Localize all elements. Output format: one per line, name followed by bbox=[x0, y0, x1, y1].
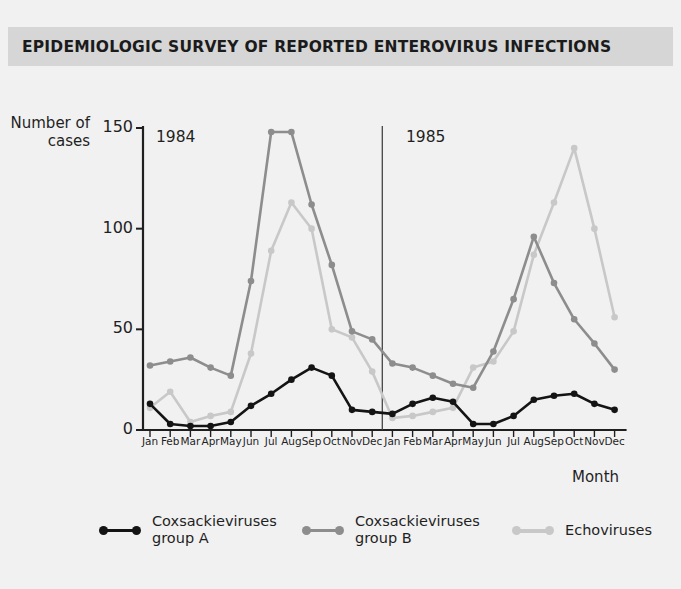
series-data-point bbox=[369, 368, 376, 375]
series-data-point bbox=[308, 364, 315, 371]
series-data-point bbox=[510, 328, 517, 335]
series-data-point bbox=[611, 366, 618, 373]
y-axis-tick-label: 150 bbox=[89, 117, 133, 136]
series-data-point bbox=[187, 354, 194, 361]
legend-marker-icon bbox=[97, 523, 143, 537]
series-data-point bbox=[591, 401, 598, 408]
series-data-point bbox=[248, 278, 255, 285]
series-data-point bbox=[409, 413, 416, 420]
y-axis-tick-label: 0 bbox=[89, 419, 133, 438]
legend-item[interactable]: Coxsackievirusesgroup B bbox=[300, 513, 480, 547]
series-data-point bbox=[389, 360, 396, 367]
legend-item[interactable]: Coxsackievirusesgroup A bbox=[97, 513, 277, 547]
legend-label: Coxsackievirusesgroup A bbox=[152, 513, 277, 547]
chart-title-banner: EPIDEMIOLOGIC SURVEY OF REPORTED ENTEROV… bbox=[8, 27, 673, 66]
chart-legend: Coxsackievirusesgroup ACoxsackievirusesg… bbox=[0, 500, 681, 570]
series-data-point bbox=[389, 411, 396, 418]
series-data-point bbox=[470, 364, 477, 371]
series-data-point bbox=[531, 252, 538, 259]
legend-label: Coxsackievirusesgroup B bbox=[355, 513, 480, 547]
series-data-point bbox=[531, 397, 538, 404]
series-data-point bbox=[207, 413, 214, 420]
legend-label-line2: group A bbox=[152, 530, 277, 547]
series-data-point bbox=[470, 384, 477, 391]
series-data-point bbox=[349, 334, 356, 341]
series-data-point bbox=[470, 421, 477, 428]
series-data-point bbox=[329, 262, 336, 269]
y-axis-tick-label: 100 bbox=[89, 218, 133, 237]
series-data-point bbox=[228, 372, 235, 379]
series-data-point bbox=[369, 409, 376, 416]
series-data-point bbox=[167, 358, 174, 365]
series-data-point bbox=[349, 407, 356, 414]
series-data-point bbox=[167, 421, 174, 428]
series-data-point bbox=[228, 409, 235, 416]
series-data-point bbox=[308, 201, 315, 208]
series-data-point bbox=[490, 421, 497, 428]
series-data-point bbox=[571, 145, 578, 152]
series-data-point bbox=[268, 248, 275, 255]
series-data-point bbox=[288, 376, 295, 383]
legend-label-line2: group B bbox=[355, 530, 480, 547]
series-data-point bbox=[611, 407, 618, 414]
legend-item[interactable]: Echoviruses bbox=[510, 522, 652, 539]
series-data-point bbox=[490, 358, 497, 365]
series-data-point bbox=[450, 399, 457, 406]
series-data-point bbox=[510, 413, 517, 420]
series-data-point bbox=[187, 423, 194, 430]
series-data-point bbox=[147, 362, 154, 369]
legend-label-line1: Coxsackieviruses bbox=[152, 513, 277, 530]
series-data-point bbox=[510, 296, 517, 303]
legend-label: Echoviruses bbox=[565, 522, 652, 539]
series-data-point bbox=[531, 233, 538, 240]
series-data-point bbox=[288, 129, 295, 136]
series-data-point bbox=[308, 225, 315, 232]
series-data-point bbox=[288, 199, 295, 206]
series-data-point bbox=[551, 280, 558, 287]
series-data-point bbox=[248, 403, 255, 410]
series-data-point bbox=[228, 419, 235, 426]
series-data-point bbox=[409, 364, 416, 371]
series-data-point bbox=[349, 328, 356, 335]
series-data-point bbox=[611, 314, 618, 321]
series-data-point bbox=[450, 380, 457, 387]
x-axis-tick-label: Dec bbox=[602, 435, 628, 447]
chart-plot-area: Number of cases 1984 1985 Month 05010015… bbox=[0, 100, 681, 500]
series-data-point bbox=[430, 394, 437, 401]
series-data-point bbox=[571, 316, 578, 323]
chart-page: EPIDEMIOLOGIC SURVEY OF REPORTED ENTEROV… bbox=[0, 0, 681, 589]
series-data-point bbox=[490, 348, 497, 355]
series-data-point bbox=[207, 364, 214, 371]
series-data-point bbox=[207, 423, 214, 430]
series-data-point bbox=[591, 225, 598, 232]
series-data-point bbox=[329, 326, 336, 333]
series-data-point bbox=[591, 340, 598, 347]
legend-marker-icon bbox=[300, 523, 346, 537]
series-data-point bbox=[329, 372, 336, 379]
legend-label-line1: Coxsackieviruses bbox=[355, 513, 480, 530]
page-title: EPIDEMIOLOGIC SURVEY OF REPORTED ENTEROV… bbox=[8, 38, 611, 56]
series-data-point bbox=[571, 390, 578, 397]
series-data-point bbox=[430, 372, 437, 379]
legend-label-line1: Echoviruses bbox=[565, 522, 652, 539]
series-data-point bbox=[409, 401, 416, 408]
series-data-point bbox=[167, 388, 174, 395]
series-data-point bbox=[551, 199, 558, 206]
y-axis-tick-label: 50 bbox=[89, 318, 133, 337]
series-data-point bbox=[248, 350, 255, 357]
legend-marker-icon bbox=[510, 524, 556, 538]
series-data-point bbox=[268, 129, 275, 136]
series-data-point bbox=[430, 409, 437, 416]
series-data-point bbox=[369, 336, 376, 343]
series-data-point bbox=[551, 392, 558, 399]
series-data-point bbox=[147, 401, 154, 408]
series-data-point bbox=[268, 390, 275, 397]
